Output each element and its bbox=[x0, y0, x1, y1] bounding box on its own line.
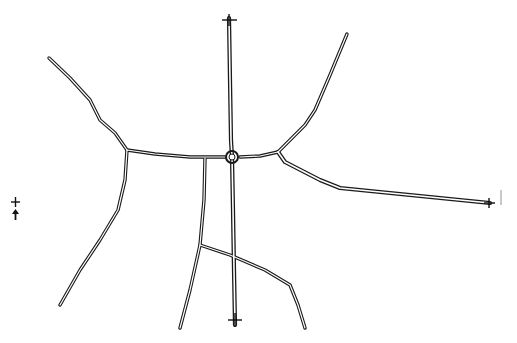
southwest-road-center bbox=[60, 150, 127, 305]
south-branch-left bbox=[180, 158, 205, 328]
road-outlines bbox=[49, 18, 490, 328]
interchange-core bbox=[229, 154, 235, 160]
road-network-diagram bbox=[0, 0, 517, 343]
north-end-marker bbox=[222, 14, 237, 26]
south-branch-connector bbox=[200, 245, 305, 328]
northeast-road bbox=[278, 34, 347, 152]
northeast-road-center bbox=[278, 34, 347, 152]
cross-symbol bbox=[11, 197, 20, 207]
northwest-road bbox=[49, 58, 127, 150]
southwest-road bbox=[60, 150, 127, 305]
east-highway bbox=[278, 152, 490, 203]
south-end-marker bbox=[228, 313, 242, 327]
road-centers bbox=[49, 18, 490, 328]
arrow-symbol bbox=[12, 209, 19, 220]
east-end-marker bbox=[484, 190, 501, 208]
east-highway-center bbox=[278, 152, 490, 203]
